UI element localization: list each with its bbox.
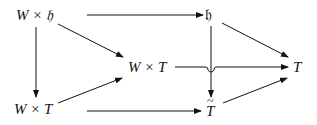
arrow-wxt-bottom-to-wxt-mid (58, 78, 122, 103)
node-h: 𝔥 (205, 8, 212, 23)
node-w-times-h: W × 𝔥 (16, 8, 53, 23)
node-t-tilde: T (206, 104, 214, 119)
node-t-tilde-label: T (206, 104, 214, 119)
arrow-wxt-mid-to-t-right (175, 67, 288, 72)
arrow-h-to-t-right (222, 23, 288, 57)
arrow-t-tilde-to-t-right (223, 78, 287, 103)
arrow-wxh-to-wxt-mid (58, 24, 123, 57)
node-w-times-t-mid: W × T (128, 60, 166, 75)
node-h-label: 𝔥 (205, 7, 212, 23)
node-w-times-t-bottom: W × T (14, 102, 52, 117)
node-t-right: T (293, 60, 301, 75)
